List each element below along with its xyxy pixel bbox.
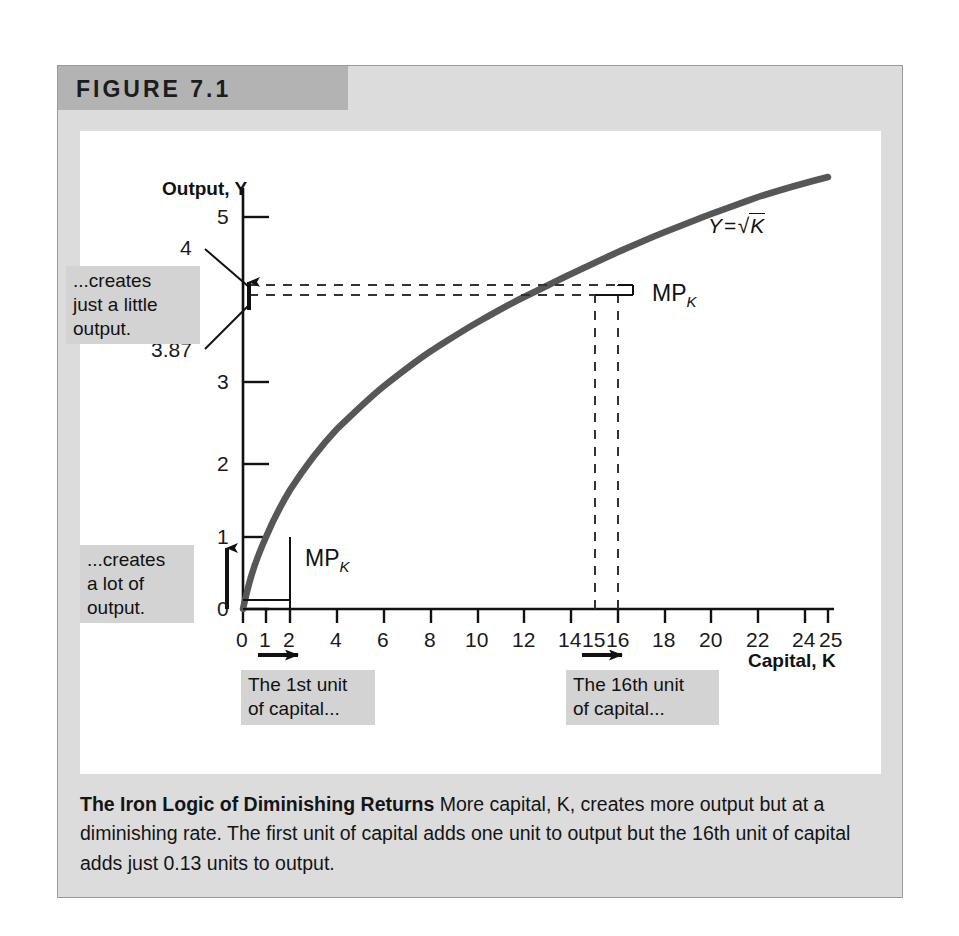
x-tick-label-18: 18: [652, 628, 675, 652]
figure-caption: The Iron Logic of Diminishing Returns Mo…: [80, 790, 885, 878]
x-tick-label-16: 16: [606, 628, 629, 652]
x-axis-title: Capital, K: [748, 650, 836, 672]
figure-panel: FIGURE 7.1: [57, 65, 903, 898]
annotation-lot-output: ...creates a lot of output.: [80, 545, 194, 623]
x-tick-label-0: 0: [236, 628, 248, 652]
x-axis-ticks: [243, 609, 828, 623]
production-function-chart: [58, 66, 904, 786]
mpk-label-sixteenth-unit: MPK: [652, 280, 697, 310]
x-tick-label-20: 20: [699, 628, 722, 652]
annotation-little-output: ...creates just a little output.: [66, 266, 200, 344]
annotation-sixteenth-unit: The 16th unit of capital...: [566, 670, 719, 725]
y-tick-label-2: 2: [217, 452, 229, 476]
x-tick-label-25: 25: [819, 628, 842, 652]
annotation-first-unit: The 1st unit of capital...: [241, 670, 375, 725]
x-tick-label-4: 4: [330, 628, 342, 652]
y-axis-title: Output, Y: [162, 178, 247, 200]
x-tick-label-15: 15: [582, 628, 605, 652]
mpk-step-sixteenth-unit: [595, 285, 633, 295]
y-tick-label-0: 0: [217, 597, 229, 621]
mpk-label-first-unit: MPK: [305, 545, 350, 575]
y-value-label-4: 4: [180, 236, 192, 260]
y-tick-label-5: 5: [217, 205, 229, 229]
x-tick-label-12: 12: [512, 628, 535, 652]
curve-equation-label: Y = √K: [708, 214, 765, 238]
x-tick-label-10: 10: [465, 628, 488, 652]
y-tick-label-3: 3: [217, 370, 229, 394]
x-tick-label-8: 8: [424, 628, 436, 652]
caption-title: The Iron Logic of Diminishing Returns: [80, 793, 434, 815]
x-tick-label-2: 2: [283, 628, 295, 652]
x-tick-label-22: 22: [746, 628, 769, 652]
y-axis-ticks: [243, 217, 269, 609]
x-tick-label-24: 24: [792, 628, 815, 652]
y-tick-label-1: 1: [217, 525, 229, 549]
x-tick-label-6: 6: [377, 628, 389, 652]
x-tick-label-1: 1: [259, 628, 271, 652]
x-tick-label-14: 14: [558, 628, 581, 652]
